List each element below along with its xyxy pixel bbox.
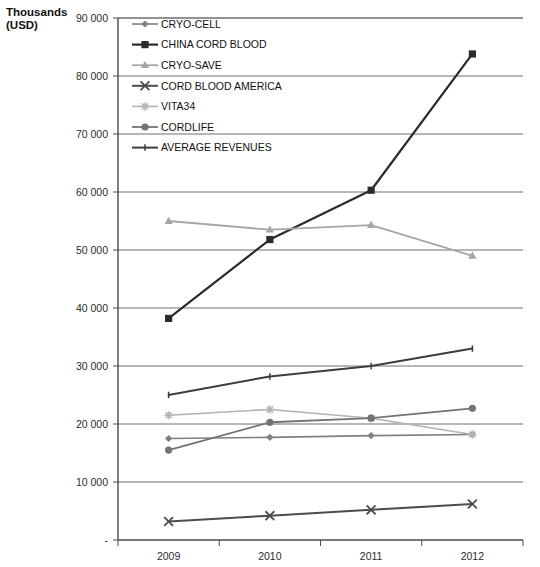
- axes-group: [118, 18, 523, 540]
- legend-label: VITA34: [161, 100, 195, 112]
- y-tick-label: 20 000: [76, 418, 108, 430]
- x-tick-label: 2012: [461, 550, 485, 562]
- legend-label: CRYO-SAVE: [161, 59, 222, 71]
- legend-item-cryo-save[interactable]: CRYO-SAVE: [132, 59, 222, 71]
- series-line: [169, 504, 473, 521]
- data-point-star-marker: [164, 411, 172, 419]
- series-vita34: [164, 405, 476, 438]
- series-average-revenues: [169, 345, 473, 398]
- data-point-square-marker: [469, 50, 476, 57]
- series-line: [169, 54, 473, 318]
- data-point-circle-marker: [266, 419, 273, 426]
- y-tick-label: 80 000: [76, 70, 108, 82]
- legend-label: AVERAGE REVENUES: [161, 141, 272, 153]
- data-point-triangle-marker: [164, 217, 172, 224]
- series-cryo-save: [164, 217, 476, 259]
- legend-label: CORDLIFE: [161, 121, 214, 133]
- x-tick-label: 2010: [258, 550, 282, 562]
- x-tick-labels-group: 2009201020112012: [157, 550, 484, 562]
- y-tick-labels-group: -10 00020 00030 00040 00050 00060 00070 …: [76, 12, 109, 546]
- series-line: [169, 349, 473, 395]
- data-point-diamond-marker: [266, 434, 273, 441]
- legend-item-average-revenues[interactable]: AVERAGE REVENUES: [132, 141, 272, 153]
- data-point-circle-marker: [368, 415, 375, 422]
- y-tick-label: 50 000: [76, 244, 108, 256]
- chart-plot-area: -10 00020 00030 00040 00050 00060 00070 …: [0, 0, 540, 567]
- legend-item-cryo-cell[interactable]: CRYO-CELL: [132, 18, 221, 30]
- y-tick-label: 90 000: [76, 12, 108, 24]
- legend-item-cordlife[interactable]: CORDLIFE: [132, 121, 214, 133]
- series-cord-blood-america: [164, 500, 477, 526]
- data-point-square-marker: [165, 315, 172, 322]
- x-tick-label: 2011: [360, 550, 383, 562]
- y-tick-label: 70 000: [76, 128, 108, 140]
- data-point-circle-marker: [469, 405, 476, 412]
- legend-label: CHINA CORD BLOOD: [161, 38, 267, 50]
- chart-legend: CRYO-CELLCHINA CORD BLOODCRYO-SAVECORD B…: [132, 18, 282, 154]
- legend-item-vita34[interactable]: VITA34: [132, 100, 195, 112]
- legend-item-china-cord-blood[interactable]: CHINA CORD BLOOD: [132, 38, 267, 50]
- y-tick-label: 40 000: [76, 302, 108, 314]
- data-point-diamond-marker: [165, 435, 172, 442]
- legend-label: CORD BLOOD AMERICA: [161, 80, 282, 92]
- data-point-circle-marker: [165, 447, 172, 454]
- line-chart: Thousands (USD) -10 00020 00030 00040 00…: [0, 0, 540, 567]
- legend-label: CRYO-CELL: [161, 18, 221, 30]
- data-point-star-marker: [468, 430, 476, 438]
- data-point-star-marker: [141, 102, 149, 110]
- y-tick-label: 60 000: [76, 186, 108, 198]
- legend-item-cord-blood-america[interactable]: CORD BLOOD AMERICA: [132, 80, 282, 92]
- data-point-diamond-marker: [368, 432, 375, 439]
- data-point-circle-marker: [141, 123, 148, 130]
- data-point-star-marker: [266, 405, 274, 413]
- series-line: [169, 221, 473, 256]
- y-tick-label: 10 000: [76, 476, 108, 488]
- x-tick-marks-group: [118, 540, 523, 546]
- y-tick-label: -: [105, 534, 109, 546]
- data-point-square-marker: [141, 41, 148, 48]
- series-cryo-cell: [165, 431, 476, 442]
- data-point-square-marker: [266, 236, 273, 243]
- x-tick-label: 2009: [157, 550, 181, 562]
- y-tick-label: 30 000: [76, 360, 108, 372]
- data-point-diamond-marker: [141, 20, 148, 27]
- data-point-square-marker: [368, 187, 375, 194]
- y-tick-marks-group: [113, 18, 118, 540]
- y-axis-title: Thousands (USD): [6, 6, 78, 32]
